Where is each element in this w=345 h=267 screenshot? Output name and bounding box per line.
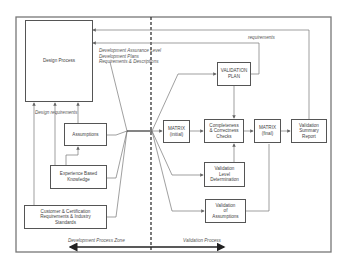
requirements-label: requirements [248,35,275,41]
dev-zone-label: Development Process Zone [68,238,125,244]
completeness-checks-box: Completeness & Correctness Checks [204,119,244,143]
design-requirements-label: Design requirements [35,110,77,116]
validation-summary-box: Validation Summary Report [291,119,327,143]
matrix-final-box: MATRIX (final) [254,119,281,143]
experience-knowledge-box: Experience Based Knowledge [50,165,107,189]
validation-zone-label: Validation Process [183,238,221,244]
validation-assumptions-box: Validation of Assumptions [205,199,246,223]
assumptions-box: Assumptions [64,123,107,146]
dev-outputs-label: Development Assurance Level Development … [99,48,161,65]
validation-plan-box: VALIDATION PLAN [217,62,251,86]
customer-requirements-box: Customer & Certification Requirements & … [24,205,107,229]
design-process-box: Design Process [25,20,93,102]
matrix-initial-box: MATRIX (initial) [163,120,190,143]
validation-level-box: Validation Level Determination [204,162,245,187]
